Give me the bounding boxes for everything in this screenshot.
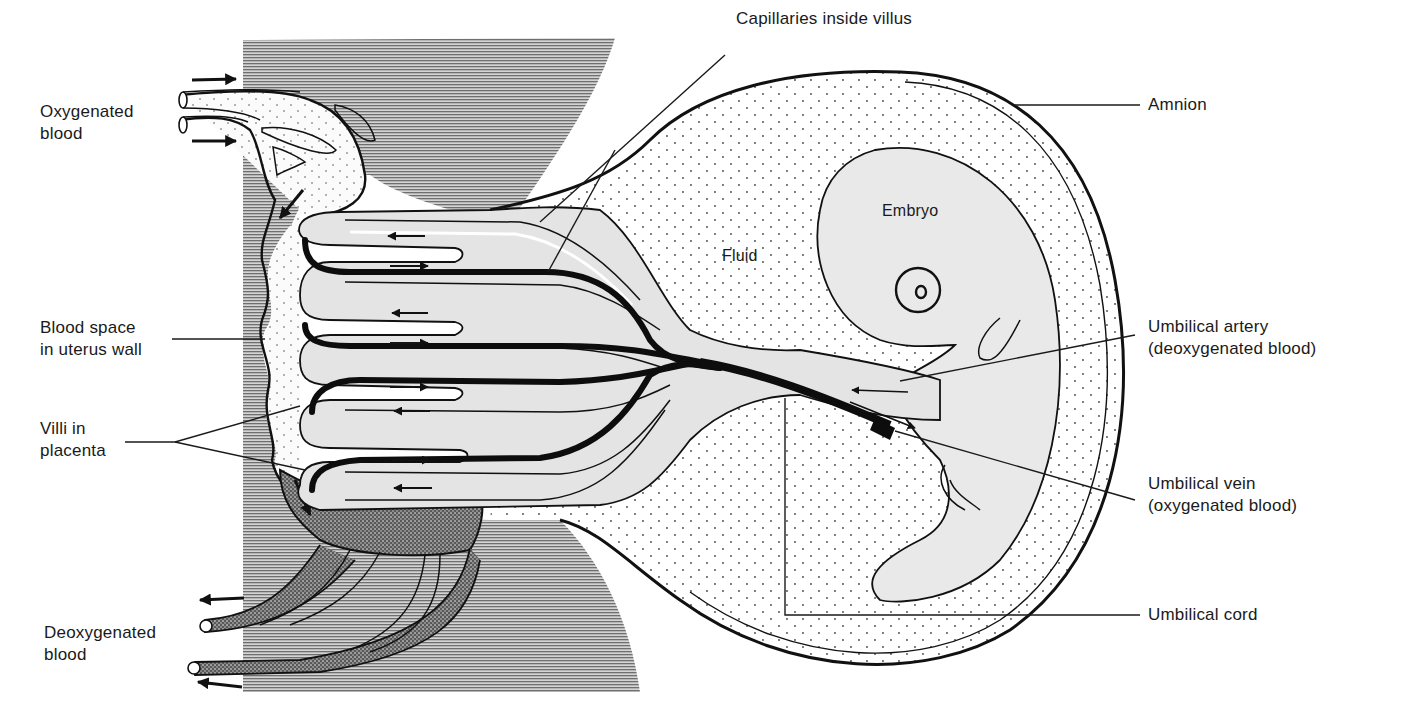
label-umbilical-vein: Umbilical vein (oxygenated blood) (1148, 473, 1297, 517)
label-villi: Villi in placenta (40, 418, 106, 462)
label-amnion: Amnion (1148, 94, 1207, 116)
label-fluid: Fluid (722, 245, 758, 267)
arrow-out-icon (200, 598, 244, 600)
arrow-in-icon (192, 79, 236, 80)
label-capillaries: Capillaries inside villus (736, 8, 912, 30)
label-embryo: Embryo (882, 200, 938, 222)
label-umbilical-artery: Umbilical artery (deoxygenated blood) (1148, 316, 1316, 360)
label-deoxygenated-blood: Deoxygenated blood (44, 622, 156, 666)
label-blood-space: Blood space in uterus wall (40, 317, 142, 361)
label-umbilical-cord: Umbilical cord (1148, 604, 1258, 626)
arrow-out-icon (198, 682, 242, 687)
label-oxygenated-blood: Oxygenated blood (40, 101, 134, 145)
